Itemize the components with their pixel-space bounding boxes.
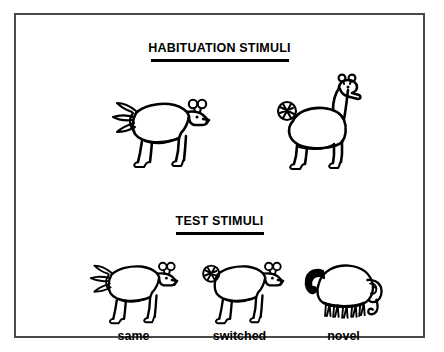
habituation-heading-text: HABITUATION STIMULI	[148, 41, 290, 55]
habituation-section-heading: HABITUATION STIMULI	[16, 38, 423, 62]
giraffe-scribble-tail-figure	[271, 75, 367, 169]
figure-border: HABITUATION STIMULI	[14, 13, 425, 338]
test-switched-label: switched	[213, 329, 267, 343]
habituation-heading-underline	[151, 59, 289, 62]
test-novel-label: novel	[327, 329, 360, 343]
test-heading-underline	[176, 232, 264, 235]
goat-fan-tail-figure	[109, 89, 213, 169]
test-same-label: same	[118, 329, 150, 343]
test-same-item: same	[86, 253, 182, 343]
habituation-goat-item	[109, 89, 213, 169]
switched-figure	[192, 253, 288, 325]
habituation-stimulus-row	[32, 75, 443, 169]
test-section-heading: TEST STIMULI	[16, 211, 423, 235]
test-stimulus-row: same	[32, 253, 443, 343]
figure-root: HABITUATION STIMULI	[0, 0, 444, 352]
same-figure	[86, 253, 182, 325]
test-heading-text: TEST STIMULI	[176, 214, 264, 228]
test-switched-item: switched	[192, 253, 288, 343]
test-novel-item: novel	[298, 253, 390, 343]
novel-figure	[298, 253, 390, 325]
habituation-giraffe-item	[271, 75, 367, 169]
